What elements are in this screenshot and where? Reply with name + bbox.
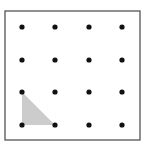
grid-dot-r2-c0: [19, 89, 24, 94]
dot-grid-diagram: [0, 0, 147, 145]
grid-dot-r1-c1: [52, 57, 57, 62]
grid-dot-r3-c2: [86, 122, 91, 127]
grid-dot-r3-c1: [52, 122, 57, 127]
grid-dot-r2-c2: [86, 89, 91, 94]
grid-dot-r0-c0: [19, 24, 24, 29]
grid-dot-r1-c0: [19, 57, 24, 62]
grid-dot-r0-c3: [119, 24, 124, 29]
grid-dot-r1-c2: [86, 57, 91, 62]
grid-dot-r3-c0: [19, 122, 24, 127]
grid-dot-r3-c3: [119, 122, 124, 127]
shaded-triangle: [22, 92, 55, 125]
grid-dot-r2-c1: [52, 89, 57, 94]
grid-dot-r0-c1: [52, 24, 57, 29]
grid-dot-r0-c2: [86, 24, 91, 29]
grid-dot-r2-c3: [119, 89, 124, 94]
grid-dot-r1-c3: [119, 57, 124, 62]
